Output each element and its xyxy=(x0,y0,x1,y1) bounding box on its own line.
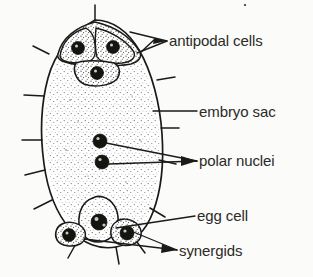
label-antipodal-cells: antipodal cells xyxy=(169,32,263,49)
label-egg-cell: egg cell xyxy=(197,207,248,224)
label-synergids: synergids xyxy=(179,242,242,259)
embryo-sac-figure: antipodal cells embryo sac polar nuclei … xyxy=(0,0,313,277)
scan-speck xyxy=(244,4,246,6)
label-embryo-sac: embryo sac xyxy=(199,103,276,120)
embryo-sac-drawing xyxy=(0,0,313,277)
label-polar-nuclei: polar nuclei xyxy=(199,152,275,169)
